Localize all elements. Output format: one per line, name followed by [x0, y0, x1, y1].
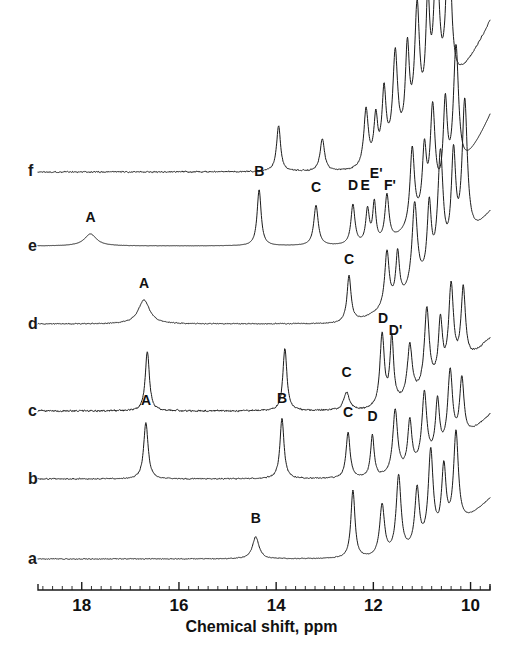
- peak-label-e-Eprime: E': [370, 166, 383, 180]
- peak-label-e-E: E: [361, 178, 370, 192]
- trace-label-b: b: [28, 471, 38, 487]
- peak-label-e-Fprime: F': [384, 178, 396, 192]
- peak-label-e-A: A: [85, 210, 95, 224]
- axis-tick-label-10: 10: [451, 597, 491, 614]
- axis-tick-label-16: 16: [159, 597, 199, 614]
- trace-label-f: f: [28, 163, 33, 179]
- trace-label-e: e: [28, 238, 37, 254]
- spectra-plot: [0, 0, 523, 672]
- peak-label-c-Dprime: D': [389, 323, 402, 337]
- axis-title: Chemical shift, ppm: [0, 618, 523, 636]
- spectrum-trace-f: [38, 0, 490, 173]
- traces-group: [38, 0, 490, 559]
- nmr-spectra-figure: fedcba ABCDEE'F'ACCDD'ABCDB 1816141210 C…: [0, 0, 523, 672]
- trace-label-a: a: [28, 551, 37, 567]
- spectrum-trace-b: [38, 368, 490, 480]
- peak-label-e-C: C: [311, 180, 321, 194]
- spectrum-trace-a: [38, 430, 490, 560]
- x-axis: [38, 582, 490, 590]
- peak-label-b-C: C: [343, 405, 353, 419]
- spectrum-trace-c: [38, 281, 490, 412]
- axis-tick-label-18: 18: [62, 597, 102, 614]
- spectrum-trace-e: [38, 44, 490, 245]
- peak-label-a-B: B: [251, 511, 261, 525]
- axis-tick-label-12: 12: [353, 597, 393, 614]
- peak-label-c-D: D: [378, 311, 388, 325]
- peak-label-b-D: D: [367, 409, 377, 423]
- axis-tick-label-14: 14: [256, 597, 296, 614]
- trace-label-c: c: [28, 403, 37, 419]
- trace-label-d: d: [28, 316, 38, 332]
- peak-label-d-A: A: [139, 276, 149, 290]
- peak-label-b-B: B: [277, 391, 287, 405]
- peak-label-d-C: C: [344, 252, 354, 266]
- peak-label-e-D: D: [348, 178, 358, 192]
- peak-label-e-B: B: [254, 164, 264, 178]
- peak-label-b-A: A: [141, 393, 151, 407]
- peak-label-c-C: C: [342, 365, 352, 379]
- spectrum-trace-d: [38, 98, 490, 324]
